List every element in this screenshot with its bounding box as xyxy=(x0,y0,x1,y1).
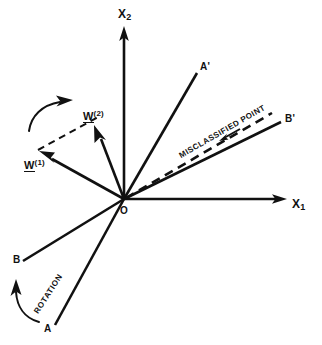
ray-a xyxy=(55,199,124,325)
vector-w2-arrowhead-icon xyxy=(94,125,106,143)
point-label-b: B xyxy=(13,255,20,265)
axis-label-x1-subscript: 1 xyxy=(300,202,305,212)
axis-x1 xyxy=(124,194,287,204)
rotation-arrow-top-path xyxy=(29,102,60,131)
point-label-a-prime: A' xyxy=(200,62,210,72)
point-label-a: A xyxy=(44,324,51,334)
vector-label-w2-superscript: (2) xyxy=(94,109,104,118)
vector-w1-shaft xyxy=(52,159,124,199)
axis-label-x2: X2 xyxy=(118,8,131,22)
origin-label: O xyxy=(120,206,128,216)
vector-label-w1-superscript: (1) xyxy=(35,158,45,167)
axis-x2 xyxy=(119,26,129,199)
vector-label-w2-base: W xyxy=(83,110,94,123)
vector-label-w1: W(1) xyxy=(24,159,45,171)
vector-w2 xyxy=(94,125,124,199)
axis-label-x2-subscript: 2 xyxy=(126,12,131,22)
vector-label-w2: W(2) xyxy=(83,110,104,122)
rotation-arrow-top-head-icon xyxy=(56,96,73,107)
axis-label-x1: X1 xyxy=(292,198,305,212)
vector-w1 xyxy=(39,151,124,199)
ray-b xyxy=(23,199,124,261)
point-label-b-prime: B' xyxy=(285,114,295,124)
vector-label-w1-base: W xyxy=(24,159,35,172)
axis-label-x2-base: X xyxy=(118,7,126,21)
axis-label-x1-base: X xyxy=(292,197,300,211)
rotation-arrow-top-icon xyxy=(29,96,73,132)
rotation-arrow-bottom-icon xyxy=(11,279,40,322)
vector-w2-shaft xyxy=(101,139,124,199)
figure-root: X2 X1 O A' B' B A W(1) W(2) ROTATION MIS… xyxy=(0,0,322,345)
